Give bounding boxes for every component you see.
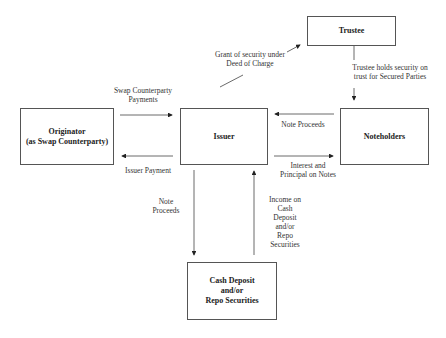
trustee-label: Trustee bbox=[339, 26, 365, 36]
note-proceeds-in-label: Note Proceeds bbox=[268, 120, 338, 129]
originator-sublabel: (as Swap Counterparty) bbox=[26, 137, 108, 147]
note-proceeds-down-label: Note Proceeds bbox=[146, 197, 186, 215]
issuer-label: Issuer bbox=[214, 132, 235, 142]
cash-label-3: Repo Securities bbox=[205, 296, 258, 306]
issuer-payment-label: Issuer Payment bbox=[110, 166, 186, 175]
cash-label-2: and/or bbox=[221, 286, 244, 296]
noteholders-label: Noteholders bbox=[364, 132, 405, 142]
swap-payments-label: Swap Counterparty Payments bbox=[105, 86, 181, 104]
grant-label: Grant of security under Deed of Charge bbox=[208, 50, 292, 68]
interest-principal-label: Interest and Principal on Notes bbox=[268, 161, 348, 179]
cash-deposit-box: Cash Deposit and/or Repo Securities bbox=[187, 262, 277, 320]
income-label: Income on Cash Deposit and/or Repo Secur… bbox=[264, 195, 306, 249]
originator-label: Originator bbox=[49, 127, 86, 137]
noteholders-box: Noteholders bbox=[340, 108, 429, 165]
grant-arrow-tail bbox=[220, 75, 243, 87]
cash-label-1: Cash Deposit bbox=[209, 276, 254, 286]
issuer-box: Issuer bbox=[180, 108, 268, 165]
trustee-box: Trustee bbox=[307, 16, 396, 46]
originator-box: Originator (as Swap Counterparty) bbox=[20, 108, 114, 165]
trustee-holds-label: Trustee holds security on trust for Secu… bbox=[345, 63, 435, 81]
